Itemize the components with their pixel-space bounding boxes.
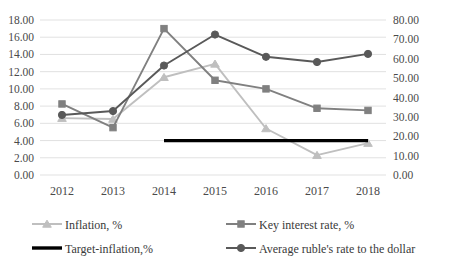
category-tick-2015: 2015 xyxy=(203,184,227,198)
chart-legend: Inflation, %Key interest rate, %Target-i… xyxy=(32,218,415,256)
right-axis-tick: 40.00 xyxy=(393,92,419,104)
data-point-marker xyxy=(212,77,218,83)
legend-item-average-ruble-s-rate-to-the-dollar[interactable]: Average ruble's rate to the dollar xyxy=(226,242,415,256)
data-point-marker xyxy=(160,62,167,69)
right-axis-tick: 60.00 xyxy=(393,53,419,65)
data-series xyxy=(58,25,373,158)
line-chart: 0.002.004.006.008.0010.0012.0014.0016.00… xyxy=(0,0,453,266)
left-axis-tick: 16.00 xyxy=(8,31,34,43)
legend-label: Inflation, % xyxy=(65,218,122,232)
left-axis-tick: 0.00 xyxy=(14,169,34,181)
left-axis-tick: 18.00 xyxy=(8,14,34,26)
right-axis-tick: 0.00 xyxy=(393,169,413,181)
left-axis-labels: 0.002.004.006.008.0010.0012.0014.0016.00… xyxy=(8,14,34,181)
legend-label: Target-inflation,% xyxy=(65,242,153,256)
data-point-marker xyxy=(211,31,218,38)
left-axis-tick: 6.00 xyxy=(14,117,34,129)
data-point-marker xyxy=(237,244,244,251)
right-axis-tick: 50.00 xyxy=(393,72,419,84)
left-axis-tick: 10.00 xyxy=(8,83,34,95)
data-point-marker xyxy=(58,111,65,118)
left-axis-tick: 8.00 xyxy=(14,100,34,112)
right-axis-tick: 80.00 xyxy=(393,14,419,26)
left-axis-tick: 2.00 xyxy=(14,152,34,164)
category-tick-2014: 2014 xyxy=(152,184,176,198)
chart-container: 0.002.004.006.008.0010.0012.0014.0016.00… xyxy=(0,0,453,266)
category-axis-labels: 2012201320142015201620172018 xyxy=(50,184,380,198)
category-tick-2017: 2017 xyxy=(305,184,329,198)
data-point-marker xyxy=(314,105,320,111)
data-point-marker xyxy=(161,25,167,31)
series-average-ruble-s-rate-to-the-dollar xyxy=(58,31,371,119)
data-point-marker xyxy=(263,86,269,92)
right-axis-tick: 30.00 xyxy=(393,111,419,123)
left-axis-tick: 12.00 xyxy=(8,66,34,78)
legend-label: Key interest rate, % xyxy=(259,218,354,232)
right-axis-labels: 0.0010.0020.0030.0040.0050.0060.0070.008… xyxy=(393,14,419,181)
category-tick-2016: 2016 xyxy=(254,184,278,198)
category-tick-2012: 2012 xyxy=(50,184,74,198)
data-point-marker xyxy=(238,221,244,227)
left-axis-tick: 4.00 xyxy=(14,135,34,147)
left-axis-tick: 14.00 xyxy=(8,48,34,60)
legend-item-key-interest-rate[interactable]: Key interest rate, % xyxy=(226,218,354,232)
data-point-marker xyxy=(365,107,371,113)
series-key-interest-rate xyxy=(59,25,371,130)
data-point-marker xyxy=(313,58,320,65)
category-tick-2018: 2018 xyxy=(356,184,380,198)
right-axis-tick: 70.00 xyxy=(393,33,419,45)
data-point-marker xyxy=(109,107,116,114)
category-tick-2013: 2013 xyxy=(101,184,125,198)
legend-item-inflation[interactable]: Inflation, % xyxy=(32,218,122,232)
data-point-marker xyxy=(262,53,269,60)
data-point-marker xyxy=(59,101,65,107)
data-point-marker xyxy=(211,60,220,67)
legend-label: Average ruble's rate to the dollar xyxy=(259,242,415,256)
legend-item-target-inflation[interactable]: Target-inflation,% xyxy=(32,242,153,256)
right-axis-tick: 10.00 xyxy=(393,150,419,162)
data-point-marker xyxy=(364,50,371,57)
right-axis-tick: 20.00 xyxy=(393,130,419,142)
data-point-marker xyxy=(110,124,116,130)
series-line xyxy=(62,35,368,115)
